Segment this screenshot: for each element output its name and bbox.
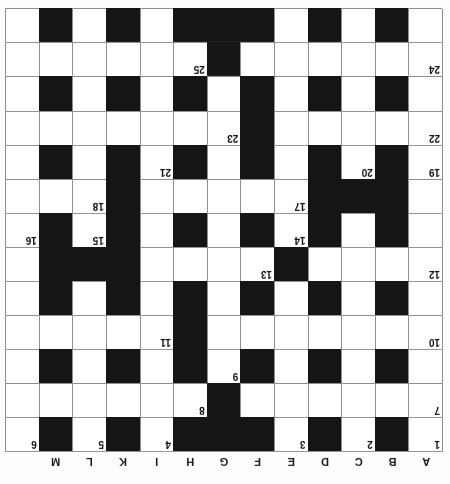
letter-cell[interactable]: [408, 179, 442, 213]
letter-cell[interactable]: [240, 179, 274, 213]
letter-cell[interactable]: [341, 247, 375, 281]
letter-cell[interactable]: [5, 76, 39, 110]
letter-cell[interactable]: 4: [140, 417, 174, 451]
letter-cell[interactable]: 18: [72, 179, 106, 213]
letter-cell[interactable]: 25: [173, 42, 207, 76]
letter-cell[interactable]: [140, 247, 174, 281]
letter-cell[interactable]: [308, 111, 342, 145]
letter-cell[interactable]: [274, 315, 308, 349]
letter-cell[interactable]: [274, 8, 308, 42]
letter-cell[interactable]: [274, 281, 308, 315]
crossword-grid[interactable]: 1234567891011121314151617181920212223242…: [5, 9, 443, 452]
letter-cell[interactable]: [408, 349, 442, 383]
letter-cell[interactable]: [72, 349, 106, 383]
letter-cell[interactable]: [39, 315, 73, 349]
letter-cell[interactable]: [106, 315, 140, 349]
letter-cell[interactable]: [5, 8, 39, 42]
letter-cell[interactable]: [5, 247, 39, 281]
letter-cell[interactable]: 15: [72, 213, 106, 247]
letter-cell[interactable]: [341, 349, 375, 383]
letter-cell[interactable]: [106, 42, 140, 76]
letter-cell[interactable]: [5, 145, 39, 179]
letter-cell[interactable]: [207, 315, 241, 349]
letter-cell[interactable]: 6: [5, 417, 39, 451]
letter-cell[interactable]: [274, 383, 308, 417]
letter-cell[interactable]: [274, 111, 308, 145]
letter-cell[interactable]: [72, 315, 106, 349]
letter-cell[interactable]: 7: [408, 383, 442, 417]
letter-cell[interactable]: [140, 179, 174, 213]
letter-cell[interactable]: [5, 349, 39, 383]
letter-cell[interactable]: [274, 349, 308, 383]
letter-cell[interactable]: 10: [408, 315, 442, 349]
letter-cell[interactable]: [72, 8, 106, 42]
letter-cell[interactable]: [207, 145, 241, 179]
letter-cell[interactable]: 1: [408, 417, 442, 451]
letter-cell[interactable]: [240, 42, 274, 76]
letter-cell[interactable]: [240, 383, 274, 417]
letter-cell[interactable]: [341, 281, 375, 315]
letter-cell[interactable]: [375, 111, 409, 145]
letter-cell[interactable]: [140, 213, 174, 247]
letter-cell[interactable]: [308, 383, 342, 417]
letter-cell[interactable]: [39, 111, 73, 145]
letter-cell[interactable]: [106, 111, 140, 145]
letter-cell[interactable]: [408, 213, 442, 247]
letter-cell[interactable]: 20: [341, 145, 375, 179]
letter-cell[interactable]: [240, 315, 274, 349]
letter-cell[interactable]: [5, 111, 39, 145]
letter-cell[interactable]: [5, 42, 39, 76]
letter-cell[interactable]: 2: [341, 417, 375, 451]
letter-cell[interactable]: [207, 213, 241, 247]
letter-cell[interactable]: [207, 179, 241, 213]
letter-cell[interactable]: [341, 42, 375, 76]
letter-cell[interactable]: [207, 76, 241, 110]
letter-cell[interactable]: [375, 247, 409, 281]
letter-cell[interactable]: [341, 315, 375, 349]
letter-cell[interactable]: 23: [207, 111, 241, 145]
letter-cell[interactable]: 22: [408, 111, 442, 145]
letter-cell[interactable]: [5, 179, 39, 213]
letter-cell[interactable]: [140, 42, 174, 76]
letter-cell[interactable]: [341, 76, 375, 110]
letter-cell[interactable]: 3: [274, 417, 308, 451]
letter-cell[interactable]: 9: [207, 349, 241, 383]
letter-cell[interactable]: [39, 179, 73, 213]
letter-cell[interactable]: [140, 383, 174, 417]
letter-cell[interactable]: [5, 315, 39, 349]
letter-cell[interactable]: 19: [408, 145, 442, 179]
letter-cell[interactable]: 11: [140, 315, 174, 349]
letter-cell[interactable]: [274, 145, 308, 179]
letter-cell[interactable]: [408, 8, 442, 42]
letter-cell[interactable]: 17: [274, 179, 308, 213]
letter-cell[interactable]: 24: [408, 42, 442, 76]
letter-cell[interactable]: [140, 281, 174, 315]
letter-cell[interactable]: [72, 111, 106, 145]
letter-cell[interactable]: 21: [140, 145, 174, 179]
letter-cell[interactable]: 16: [5, 213, 39, 247]
letter-cell[interactable]: [106, 383, 140, 417]
letter-cell[interactable]: [39, 42, 73, 76]
letter-cell[interactable]: [140, 111, 174, 145]
letter-cell[interactable]: 12: [408, 247, 442, 281]
letter-cell[interactable]: [173, 179, 207, 213]
letter-cell[interactable]: [173, 111, 207, 145]
letter-cell[interactable]: [375, 42, 409, 76]
letter-cell[interactable]: [140, 349, 174, 383]
letter-cell[interactable]: [341, 8, 375, 42]
letter-cell[interactable]: [5, 383, 39, 417]
letter-cell[interactable]: [72, 281, 106, 315]
letter-cell[interactable]: 8: [173, 383, 207, 417]
letter-cell[interactable]: [173, 247, 207, 281]
letter-cell[interactable]: [274, 76, 308, 110]
letter-cell[interactable]: [408, 76, 442, 110]
letter-cell[interactable]: [72, 42, 106, 76]
letter-cell[interactable]: [308, 247, 342, 281]
letter-cell[interactable]: [308, 315, 342, 349]
letter-cell[interactable]: [375, 315, 409, 349]
letter-cell[interactable]: [341, 383, 375, 417]
letter-cell[interactable]: [341, 111, 375, 145]
letter-cell[interactable]: [375, 383, 409, 417]
letter-cell[interactable]: [207, 281, 241, 315]
letter-cell[interactable]: [408, 281, 442, 315]
